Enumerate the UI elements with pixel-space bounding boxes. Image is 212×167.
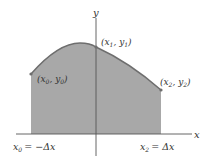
point-p1-label: (x1, y1) (101, 37, 132, 48)
left-bound-label: x0= −Δx (13, 141, 56, 153)
point-p0-marker (29, 72, 32, 75)
y-axis-label: y (92, 7, 99, 18)
right-bound-label: x2= Δx (140, 141, 175, 153)
diagram-canvas: y x (x1, y1) (x0, y0) (x2, y2) x0= −Δx x… (0, 0, 212, 167)
point-p0-label: (x0, y0) (37, 74, 68, 85)
point-p2-marker (159, 88, 162, 91)
point-p2-label: (x2, y2) (160, 77, 191, 88)
x-axis-label: x (194, 129, 200, 140)
point-p1-marker (94, 45, 97, 48)
